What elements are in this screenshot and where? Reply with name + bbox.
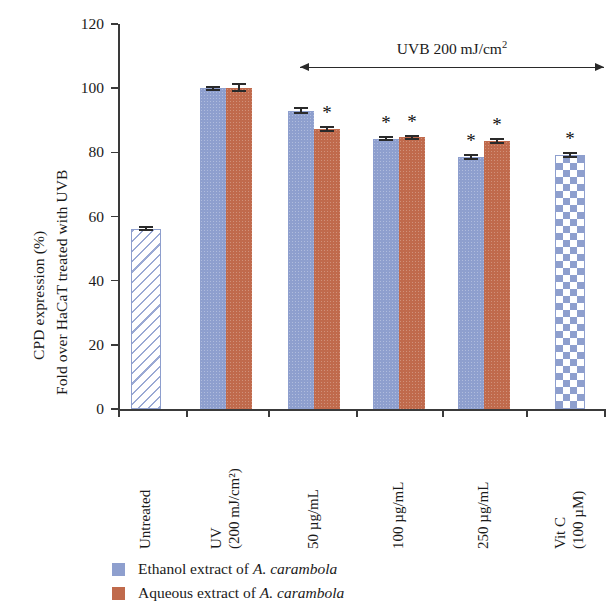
cpd-expression-bar-chart: CPD expression (%) Fold over HaCaT treat… <box>0 0 609 611</box>
error-bar-cap-bottom <box>405 138 419 140</box>
bar-vitamin-c-control <box>555 155 585 409</box>
legend-label-aqueous-species: A. carambola <box>260 584 344 601</box>
error-bar-cap-bottom <box>320 130 334 132</box>
x-axis-label-line1: 100 µg/mL <box>390 482 406 549</box>
x-axis-line <box>118 409 604 411</box>
legend-item-ethanol: Ethanol extract of A. carambola <box>112 557 532 581</box>
bar-ethanol-extract <box>200 88 226 409</box>
uvb-arrowhead-right-icon <box>595 63 604 71</box>
error-bar-cap-top <box>464 154 478 156</box>
x-axis-tick <box>442 409 444 417</box>
error-bar-cap-top <box>490 138 504 140</box>
error-bar-cap-top <box>232 83 246 85</box>
error-bar-cap-bottom <box>232 90 246 92</box>
x-axis-label-line2: (100 µM) <box>569 409 587 549</box>
x-axis-label-4: 250 µg/mL <box>474 409 492 549</box>
significance-asterisk: * <box>407 112 417 131</box>
legend-label-ethanol: Ethanol extract of A. carambola <box>138 560 337 578</box>
x-axis-label-line1: 250 µg/mL <box>475 482 491 549</box>
x-axis-tick <box>268 409 270 417</box>
significance-asterisk: * <box>381 113 391 132</box>
x-axis-label-line1: 50 µg/mL <box>305 489 321 549</box>
plot-area: 020406080100120 ****** UVB 200 mJ/cm2 <box>118 24 604 409</box>
y-axis-tick-label: 60 <box>89 209 105 225</box>
error-bar-cap-bottom <box>206 89 220 91</box>
uvb-range-label: UVB 200 mJ/cm2 <box>397 40 507 58</box>
x-axis-label-line2: (200 mJ/cm²) <box>225 409 243 549</box>
y-axis-line <box>118 24 120 409</box>
y-axis-tick <box>111 23 118 25</box>
error-bar-cap-top <box>405 135 419 137</box>
significance-asterisk: * <box>466 131 476 150</box>
y-axis-tick-label: 40 <box>89 273 105 289</box>
bar-aqueous-extract <box>314 129 340 409</box>
significance-asterisk: * <box>322 103 332 122</box>
bar-ethanol-extract <box>458 157 484 409</box>
x-axis-label-2: 50 µg/mL <box>304 409 322 549</box>
error-bar-cap-top <box>294 107 308 109</box>
y-axis-tick <box>111 344 118 346</box>
error-bar-cap-bottom <box>379 139 393 141</box>
x-axis-tick <box>118 409 120 417</box>
uvb-arrowhead-left-icon <box>300 63 309 71</box>
y-axis-tick <box>111 152 118 154</box>
y-axis-title: CPD expression (%) Fold over HaCaT treat… <box>0 0 80 430</box>
legend-label-aqueous-prefix: Aqueous extract of <box>138 584 260 601</box>
legend-label-aqueous: Aqueous extract of A. carambola <box>138 584 344 602</box>
error-bar-cap-bottom <box>294 112 308 114</box>
bar-untreated-control <box>131 229 161 409</box>
y-axis-tick-label: 20 <box>89 337 105 353</box>
error-bar-cap-top <box>320 126 334 128</box>
legend-label-ethanol-prefix: Ethanol extract of <box>138 560 253 577</box>
significance-asterisk: * <box>565 129 575 148</box>
x-axis-label-line1: Untreated <box>137 490 153 549</box>
bar-ethanol-extract <box>288 111 314 409</box>
y-axis-tick-label: 120 <box>81 16 104 32</box>
x-axis-label-line1: UV <box>208 527 224 549</box>
error-bar-cap-bottom <box>464 158 478 160</box>
y-axis-tick <box>111 216 118 218</box>
error-bar-cap-bottom <box>490 142 504 144</box>
legend: Ethanol extract of A. carambola Aqueous … <box>112 557 532 605</box>
error-bar-cap-top <box>379 136 393 138</box>
legend-swatch-aqueous <box>112 587 125 600</box>
x-axis-tick <box>356 409 358 417</box>
legend-item-aqueous: Aqueous extract of A. carambola <box>112 581 532 605</box>
x-axis-tick <box>526 409 528 417</box>
x-axis-label-3: 100 µg/mL <box>389 409 407 549</box>
y-axis-tick <box>111 280 118 282</box>
y-axis-title-line1: CPD expression (%) <box>30 231 48 360</box>
bar-aqueous-extract <box>399 137 425 409</box>
y-axis-tick-label: 80 <box>89 145 105 161</box>
uvb-arrow-line <box>300 67 604 68</box>
uvb-range-label-exponent: 2 <box>502 39 507 50</box>
x-axis-label-line1: Vit C <box>552 517 568 549</box>
significance-asterisk: * <box>492 115 502 134</box>
error-bar-cap-bottom <box>139 229 153 231</box>
uvb-range-label-text: UVB 200 mJ/cm <box>397 40 502 57</box>
bar-aqueous-extract <box>484 141 510 409</box>
y-axis-tick-label: 0 <box>96 401 104 417</box>
x-axis-tick <box>186 409 188 417</box>
legend-swatch-ethanol <box>112 563 125 576</box>
x-axis-label-0: Untreated <box>136 409 154 549</box>
x-axis-tick <box>604 409 606 417</box>
error-bar-cap-bottom <box>563 156 577 158</box>
error-bar-cap-top <box>206 86 220 88</box>
y-axis-tick <box>111 408 118 410</box>
bar-ethanol-extract <box>373 139 399 409</box>
y-axis-title-line2: Fold over HaCaT treated with UVB <box>53 170 71 395</box>
x-axis-label-5: Vit C(100 µM) <box>551 409 588 549</box>
error-bar-cap-top <box>563 152 577 154</box>
legend-label-ethanol-species: A. carambola <box>253 560 337 577</box>
x-axis-label-1: UV(200 mJ/cm²) <box>207 409 244 549</box>
y-axis-tick-label: 100 <box>81 80 104 96</box>
bar-aqueous-extract <box>226 88 252 409</box>
y-axis-tick <box>111 87 118 89</box>
